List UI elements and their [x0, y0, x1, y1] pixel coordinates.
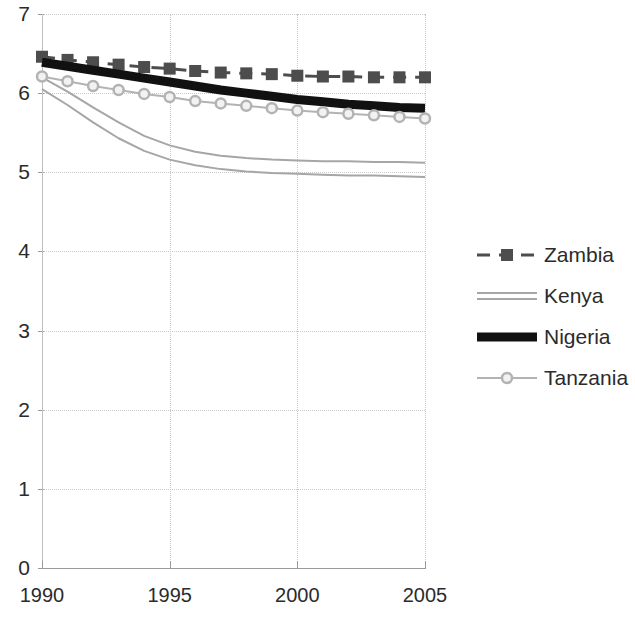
legend-swatch-nigeria-icon — [476, 325, 538, 349]
y-tick-label: 3 — [0, 320, 30, 341]
y-tick-label: 2 — [0, 399, 30, 420]
data-point-marker — [37, 72, 47, 82]
data-point-marker — [317, 71, 329, 83]
data-point-marker — [63, 76, 73, 86]
x-tick-label: 1990 — [2, 585, 82, 605]
data-point-marker — [343, 109, 353, 119]
gridline-x-2005 — [425, 14, 426, 568]
data-point-marker — [393, 71, 405, 83]
x-axis-line — [42, 568, 425, 569]
data-point-marker — [420, 113, 430, 123]
data-point-marker — [419, 71, 431, 83]
legend-item-nigeria[interactable]: Nigeria — [476, 316, 635, 357]
x-tick-label: 2005 — [385, 585, 465, 605]
plot-area — [42, 14, 425, 568]
data-point-marker — [113, 59, 125, 71]
legend-swatch-zambia-icon — [476, 243, 538, 267]
data-point-marker — [164, 63, 176, 75]
data-point-marker — [240, 67, 252, 79]
data-point-marker — [165, 92, 175, 102]
x-tick-mark — [297, 561, 298, 569]
data-point-marker — [291, 70, 303, 82]
data-point-marker — [241, 101, 251, 111]
data-point-marker — [292, 106, 302, 116]
series-line-nigeria — [42, 62, 425, 108]
data-point-marker — [88, 81, 98, 91]
data-point-marker — [216, 98, 226, 108]
data-point-marker — [189, 65, 201, 77]
legend-swatch-tanzania-icon — [476, 366, 538, 390]
data-point-marker — [267, 103, 277, 113]
data-point-marker — [342, 71, 354, 83]
y-tick-label: 7 — [0, 3, 30, 24]
legend-swatch-kenya-icon — [476, 284, 538, 308]
y-tick-label: 0 — [0, 557, 30, 578]
x-tick-mark — [170, 561, 171, 569]
legend-label: Tanzania — [544, 367, 628, 388]
data-point-marker — [394, 112, 404, 122]
y-tick-label: 5 — [0, 161, 30, 182]
data-series-layer — [42, 14, 425, 568]
x-tick-label: 1995 — [130, 585, 210, 605]
data-point-marker — [368, 71, 380, 83]
x-tick-mark — [42, 561, 43, 569]
legend-label: Nigeria — [544, 326, 611, 347]
legend-label: Zambia — [544, 244, 614, 265]
chart-figure: 01234567 1990199520002005 ZambiaKenyaNig… — [0, 0, 635, 620]
data-point-marker — [139, 89, 149, 99]
legend-label: Kenya — [544, 285, 604, 306]
x-tick-mark — [425, 561, 426, 569]
legend-item-kenya[interactable]: Kenya — [476, 275, 635, 316]
data-point-marker — [318, 107, 328, 117]
y-tick-label: 4 — [0, 240, 30, 261]
y-tick-label: 6 — [0, 82, 30, 103]
x-tick-label: 2000 — [257, 585, 337, 605]
y-tick-label: 1 — [0, 478, 30, 499]
data-point-marker — [138, 61, 150, 73]
data-point-marker — [369, 110, 379, 120]
legend-item-zambia[interactable]: Zambia — [476, 234, 635, 275]
legend: ZambiaKenyaNigeriaTanzania — [476, 234, 635, 398]
data-point-marker — [114, 85, 124, 95]
data-point-marker — [215, 67, 227, 79]
legend-item-tanzania[interactable]: Tanzania — [476, 357, 635, 398]
data-point-marker — [190, 96, 200, 106]
data-point-marker — [266, 68, 278, 80]
